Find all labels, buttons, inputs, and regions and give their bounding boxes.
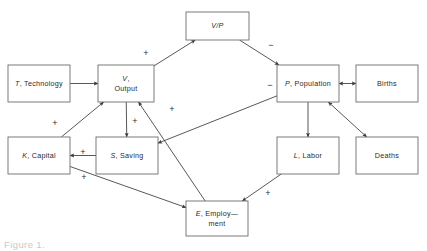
sign-vp-population: − xyxy=(268,40,273,50)
node-label-technology: T, Technology xyxy=(15,78,63,87)
node-output[interactable]: V,Output xyxy=(98,65,154,102)
node-saving[interactable]: S, Saving xyxy=(96,137,158,174)
node-technology[interactable]: T, Technology xyxy=(8,65,70,102)
node-label-employment: E, Employ— xyxy=(196,209,239,218)
node-label-capital: K, Capital xyxy=(22,150,56,159)
sign-output-saving: + xyxy=(132,116,137,126)
node-labor[interactable]: L, Labor xyxy=(277,137,339,174)
sign-output-vp: + xyxy=(143,48,148,58)
node-label-vp: V/P xyxy=(211,21,223,30)
node-employment[interactable]: E, Employ—ment xyxy=(186,201,248,236)
node-label2-employment: ment xyxy=(209,219,226,228)
edge-population-to-saving xyxy=(158,96,277,143)
node-label-labor: L, Labor xyxy=(294,150,323,159)
sign-capital-employment: + xyxy=(81,172,86,182)
figure-caption: Figure 1. xyxy=(4,239,45,250)
node-capital[interactable]: K, Capital xyxy=(8,137,70,174)
edge-capital-to-output xyxy=(61,102,103,137)
sign-labor-employment: + xyxy=(265,188,270,198)
node-births[interactable]: Births xyxy=(356,65,418,102)
node-label-births: Births xyxy=(377,78,397,87)
sign-saving-capital: + xyxy=(80,147,85,157)
diagram-canvas: V/PT, TechnologyV,OutputP, PopulationBir… xyxy=(0,0,427,251)
node-population[interactable]: P, Population xyxy=(277,65,339,102)
edge-labor-to-employment xyxy=(242,174,281,201)
node-label-output: V, xyxy=(122,74,129,83)
node-label-saving: S, Saving xyxy=(110,150,143,159)
causal-diagram: V/PT, TechnologyV,OutputP, PopulationBir… xyxy=(0,0,427,251)
edge-output-to-vp xyxy=(154,40,195,66)
sign-population-left: − xyxy=(267,80,272,90)
node-vp[interactable]: V/P xyxy=(186,12,249,40)
signs-layer: +−−++++++ xyxy=(52,40,273,198)
node-label-deaths: Deaths xyxy=(375,150,399,159)
edge-population-to-deaths xyxy=(328,102,366,137)
node-label2-output: Output xyxy=(114,84,137,93)
nodes-layer: V/PT, TechnologyV,OutputP, PopulationBir… xyxy=(8,12,418,236)
sign-employment-output: + xyxy=(169,104,174,114)
node-deaths[interactable]: Deaths xyxy=(356,137,418,174)
sign-capital-output: + xyxy=(52,118,57,128)
node-label-population: P, Population xyxy=(285,78,331,87)
